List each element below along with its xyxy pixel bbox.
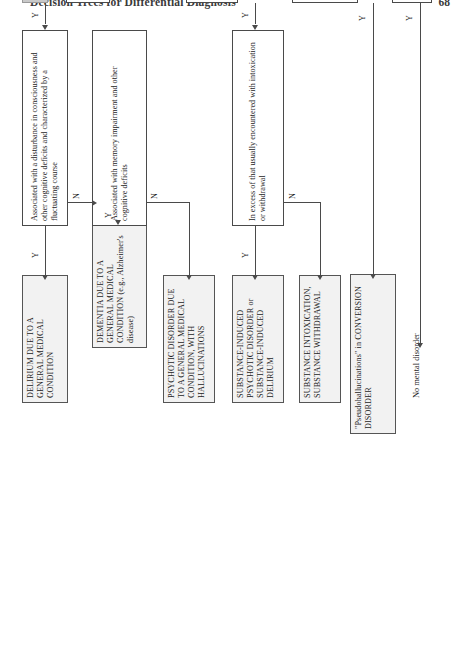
outcome-delirium-gmc: DELIRIUM DUE TO A GENERAL MEDICAL CONDIT… (22, 275, 68, 403)
edge-q1a-yes-line (45, 226, 46, 275)
edge-q1a-no-label: N (72, 193, 81, 199)
edge-q2-yes-label: Y (241, 12, 250, 18)
question-in-excess-intoxication: In excess of that usually encountered wi… (232, 30, 284, 226)
edge-q1-yes-line (45, 3, 46, 24)
edge-q1b-yes-label: Y (104, 212, 113, 218)
edge-q1b-yes-arrow (115, 220, 121, 225)
edge-q2a-no-hline (320, 202, 321, 275)
question-intact-insight: Hallucinatory experiences with intact in… (292, 0, 358, 3)
question-substance-physiological: Due to the direct physiological effects … (186, 0, 238, 3)
edge-q3-yes-arrow (370, 274, 376, 279)
outcome-substance-induced-psychotic: SUBSTANCE-INDUCED PSYCHOTIC DISORDER or … (232, 275, 284, 403)
edge-q2-yes-line (255, 3, 256, 24)
edge-q1a-yes-arrow (42, 275, 48, 280)
edge-q1a-yes-label: Y (31, 252, 40, 258)
edge-q2a-no-label: N (288, 193, 297, 199)
question-in-excess-intoxication-label: In excess of that usually encountered wi… (248, 35, 268, 221)
decision-tree-canvas: DELIRIUM DUE TO A GENERAL MEDICAL CONDIT… (0, 0, 458, 458)
outcome-psychotic-disorder-gmc: PSYCHOTIC DISORDER DUE TO A GENERAL MEDI… (163, 275, 215, 403)
question-dementia-features: Associated with memory impairment and ot… (92, 30, 147, 226)
question-gmc-physiological: Due to the direct physiological effects … (66, 0, 110, 3)
edge-q4-yes-line (420, 3, 421, 343)
outcome-dementia-gmc-label: DEMENTIA DUE TO A GENERAL MEDICAL CONDIT… (96, 225, 136, 343)
edge-q1b-no-arrow (186, 275, 192, 280)
outcome-substance-intoxication-withdrawal-label: SUBSTANCE INTOXICATION, SUBSTANCE WITHDR… (303, 280, 323, 398)
edge-q1b-no-label: N (150, 193, 159, 199)
outcome-pseudohallucinations-conversion: "Pseudohallucinations" in CONVERSION DIS… (350, 274, 396, 434)
edge-q1-yes-label: Y (31, 12, 40, 18)
question-delirium-features-label: Associated with a disturbance in conscio… (30, 35, 60, 221)
edge-q3-yes-label: Y (358, 15, 367, 21)
edge-q2a-yes-line (255, 226, 256, 275)
edge-q2a-no-vline (284, 202, 320, 203)
question-culturally-sanctioned: Hallucinatory experiences are culturally… (392, 0, 432, 3)
outcome-delirium-gmc-label: DELIRIUM DUE TO A GENERAL MEDICAL CONDIT… (26, 280, 56, 398)
edge-q1-yes-arrow (42, 25, 48, 30)
outcome-pseudohallucinations-conversion-label: "Pseudohallucinations" in CONVERSION DIS… (354, 279, 374, 429)
edge-q1a-no-arrow (92, 200, 97, 206)
edge-q2-yes-arrow (252, 25, 258, 30)
outcome-substance-intoxication-withdrawal: SUBSTANCE INTOXICATION, SUBSTANCE WITHDR… (299, 275, 341, 403)
edge-q4-yes-arrow (417, 343, 423, 348)
edge-q4-yes-label: Y (405, 15, 414, 21)
edge-q1b-no-hline (189, 202, 190, 275)
question-dementia-features-label: Associated with memory impairment and ot… (110, 35, 130, 221)
edge-q2a-yes-label: Y (241, 252, 250, 258)
edge-q2a-yes-arrow (252, 275, 258, 280)
edge-q1a-no-line (68, 202, 92, 203)
outcome-dementia-gmc: DEMENTIA DUE TO A GENERAL MEDICAL CONDIT… (92, 220, 147, 348)
outcome-psychotic-disorder-gmc-label: PSYCHOTIC DISORDER DUE TO A GENERAL MEDI… (167, 280, 207, 398)
edge-q3-yes-line (373, 3, 374, 274)
edge-q1b-no-vline (147, 202, 189, 203)
outcome-substance-induced-psychotic-label: SUBSTANCE-INDUCED PSYCHOTIC DISORDER or … (236, 280, 276, 398)
edge-q2a-no-arrow (317, 275, 323, 280)
question-delirium-features: Associated with a disturbance in conscio… (22, 30, 68, 226)
